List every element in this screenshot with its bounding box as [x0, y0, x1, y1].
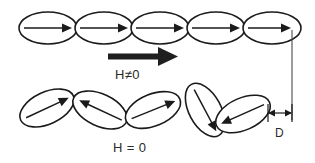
dimension-label: D [275, 126, 284, 140]
random-domain-row [14, 77, 276, 143]
field-off-label: H = 0 [113, 140, 146, 155]
domain-ellipse-random-2 [67, 83, 133, 137]
figure-canvas: H≠0 [0, 0, 315, 163]
field-arrow-shaft [108, 54, 162, 60]
domain-ellipse-aligned-3 [131, 12, 189, 44]
dimension-arrow-head-right [285, 110, 292, 117]
applied-field-arrow [108, 47, 178, 66]
dimension-D: D [268, 104, 292, 140]
aligned-domain-row [19, 12, 301, 44]
magnetostriction-figure: H≠0 [0, 0, 315, 163]
domain-ellipse-random-3 [120, 84, 186, 135]
domain-ellipse-random-1 [14, 81, 80, 135]
domain-ellipse-aligned-4 [187, 12, 245, 44]
domain-ellipse-aligned-1 [19, 12, 77, 44]
domain-ellipse-aligned-2 [75, 12, 133, 44]
field-on-label: H≠0 [115, 67, 140, 82]
field-arrow-head [158, 47, 178, 66]
